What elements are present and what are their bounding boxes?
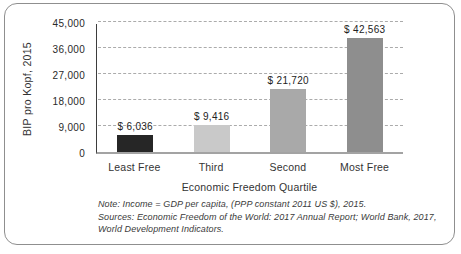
note-line-3: World Development Indicators. xyxy=(98,223,438,236)
bar-value-label: $ 21,720 xyxy=(268,75,309,86)
bars: $ 6,036$ 9,416$ 21,720$ 42,563 xyxy=(97,24,403,152)
note-line-1: Note: Income = GDP per capita, (PPP cons… xyxy=(98,198,438,211)
x-axis-title: Economic Freedom Quartile xyxy=(96,181,403,193)
y-axis-title: BIP pro Kopf, 2015 xyxy=(21,42,33,136)
note-line-2: Sources: Economic Freedom of the World: … xyxy=(98,211,438,224)
y-tick-label: 36,000 xyxy=(53,44,85,56)
chart-notes: Note: Income = GDP per capita, (PPP cons… xyxy=(98,198,438,236)
bar-column-second: $ 21,720 xyxy=(250,24,327,152)
bar-most-free xyxy=(347,38,383,152)
y-tick-label: 27,000 xyxy=(53,70,85,82)
x-category-label-third: Third xyxy=(173,161,250,173)
bar-value-label: $ 9,416 xyxy=(194,111,229,122)
bar-second xyxy=(270,89,306,152)
bar-column-third: $ 9,416 xyxy=(174,24,251,152)
plot-area: $ 6,036$ 9,416$ 21,720$ 42,563 xyxy=(96,24,403,154)
y-tick-label: 0 xyxy=(79,148,85,160)
bar-third xyxy=(194,125,230,152)
y-tick-label: 45,000 xyxy=(53,18,85,30)
bar-column-most-free: $ 42,563 xyxy=(327,24,404,152)
bar-value-label: $ 6,036 xyxy=(118,121,153,132)
y-tick-label: 9,000 xyxy=(58,122,85,134)
x-category-labels: Least FreeThirdSecondMost Free xyxy=(96,161,403,173)
bar-least-free xyxy=(117,135,153,152)
bar-column-least-free: $ 6,036 xyxy=(97,24,174,152)
x-category-label-least-free: Least Free xyxy=(96,161,173,173)
gridline xyxy=(98,21,403,22)
bar-value-label: $ 42,563 xyxy=(344,24,385,35)
y-tick-label: 18,000 xyxy=(53,96,85,108)
y-axis-ticks: 09,00018,00027,00036,00045,000 xyxy=(33,24,85,154)
x-category-label-most-free: Most Free xyxy=(326,161,403,173)
chart-card: BIP pro Kopf, 2015 09,00018,00027,00036,… xyxy=(4,3,455,245)
x-category-label-second: Second xyxy=(250,161,327,173)
